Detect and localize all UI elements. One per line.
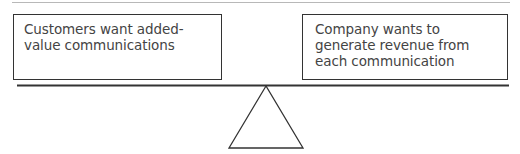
fulcrum-triangle-icon — [229, 86, 303, 148]
balance-scale — [0, 0, 520, 154]
